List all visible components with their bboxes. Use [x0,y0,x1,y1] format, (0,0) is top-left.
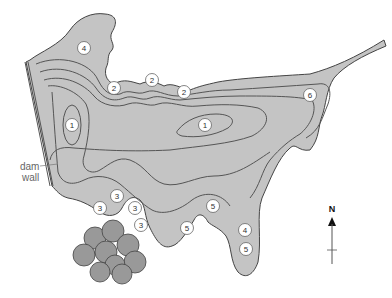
svg-text:1: 1 [70,121,75,130]
dam-label-line2: wall [21,172,39,183]
svg-text:4: 4 [243,226,248,235]
depth-marker-2: 2 [178,86,191,99]
depth-marker-3: 3 [94,202,107,215]
svg-text:3: 3 [115,192,120,201]
vegetation-cluster-icon [73,220,146,284]
north-arrow-icon: N [327,204,337,264]
depth-marker-3: 3 [111,190,124,203]
svg-text:1: 1 [203,121,208,130]
depth-marker-1: 1 [199,119,212,132]
depth-marker-4: 4 [78,42,91,55]
svg-text:5: 5 [211,202,216,211]
svg-text:4: 4 [82,44,87,53]
svg-text:3: 3 [139,221,144,230]
depth-marker-6: 6 [304,89,317,102]
depth-marker-3: 3 [129,202,142,215]
svg-text:5: 5 [244,245,249,254]
depth-marker-5: 5 [181,222,194,235]
depth-marker-5: 5 [240,243,253,256]
svg-text:3: 3 [133,204,138,213]
svg-text:5: 5 [185,224,190,233]
depth-marker-5: 5 [207,200,220,213]
reservoir-contour-map: dam wall 422261133335545 N [0,0,392,298]
svg-text:6: 6 [308,91,313,100]
svg-text:2: 2 [150,76,155,85]
svg-text:3: 3 [98,204,103,213]
depth-marker-3: 3 [135,219,148,232]
depth-marker-1: 1 [66,119,79,132]
svg-text:2: 2 [182,88,187,97]
svg-text:2: 2 [112,84,117,93]
dam-label-line1: dam [20,161,39,172]
depth-marker-2: 2 [108,82,121,95]
depth-marker-2: 2 [146,74,159,87]
svg-text:N: N [329,204,336,214]
depth-marker-4: 4 [239,224,252,237]
